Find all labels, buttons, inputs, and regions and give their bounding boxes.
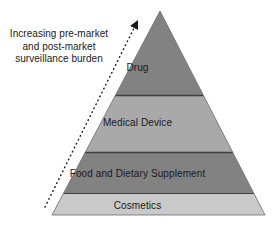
increasing-burden-label: Increasing pre-market and post-market su… — [6, 28, 112, 66]
pyramid-figure: Increasing pre-market and post-market su… — [0, 0, 275, 235]
tier-label-cosmetics: Cosmetics — [0, 200, 275, 211]
tier-label-drug: Drug — [0, 62, 275, 73]
tier-label-food-and-dietary-supplement: Food and Dietary Supplement — [0, 168, 275, 179]
tier-label-medical-device: Medical Device — [0, 117, 275, 128]
